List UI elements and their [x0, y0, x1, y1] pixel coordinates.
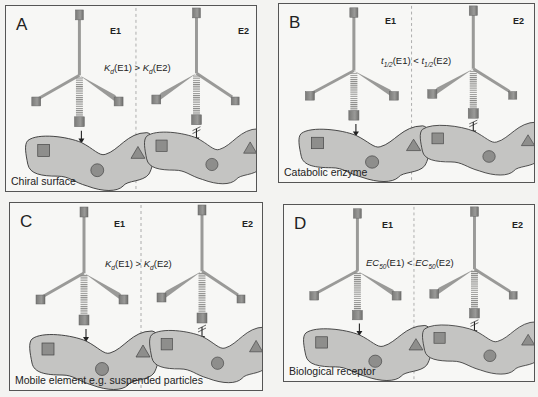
relation-text: EC50(E1) < EC50(E2)	[366, 257, 454, 270]
panel-a: A E1 E2 Kd(E1) > Kd(E2) Chiral surface	[5, 5, 257, 192]
enantiomer-e2-label: E2	[512, 220, 523, 230]
panel-b: B E1 E2 t1/2(E1) < t1/2(E2) Catabolic en…	[278, 3, 535, 183]
panel-letter: A	[16, 15, 27, 35]
panel-d-diagram	[284, 205, 534, 381]
panel-caption: Catabolic enzyme	[284, 166, 367, 178]
panel-c-diagram	[10, 203, 262, 390]
panel-a-diagram	[6, 6, 256, 191]
enantiomer-e2-label: E2	[242, 219, 253, 229]
panel-d: D E1 E2 EC50(E1) < EC50(E2) Biological r…	[283, 204, 535, 382]
enantiomer-e2-label: E2	[513, 16, 524, 26]
panel-letter: D	[294, 214, 306, 234]
panel-c: C E1 E2 Kd(E1) > Kd(E2) Mobile element e…	[9, 202, 263, 391]
panel-letter: B	[289, 13, 300, 33]
relation-text: Kd(E1) > Kd(E2)	[105, 258, 172, 271]
panel-caption: Mobile element e.g. suspended particles	[15, 374, 203, 386]
relation-text: Kd(E1) > Kd(E2)	[104, 62, 171, 75]
enantiomer-e2-label: E2	[238, 26, 249, 36]
panel-letter: C	[20, 212, 32, 232]
enantiomer-e1-label: E1	[385, 16, 396, 26]
enantiomer-e1-label: E1	[110, 26, 121, 36]
panel-caption: Chiral surface	[11, 175, 76, 187]
enantiomer-e1-label: E1	[382, 220, 393, 230]
panel-caption: Biological receptor	[289, 365, 375, 377]
relation-text: t1/2(E1) < t1/2(E2)	[381, 55, 451, 68]
panel-b-diagram	[279, 4, 534, 182]
enantiomer-e1-label: E1	[114, 219, 125, 229]
